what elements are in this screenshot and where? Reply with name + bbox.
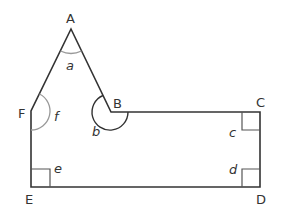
angle-c-right-marker — [242, 112, 260, 130]
angle-label-f: f — [54, 109, 61, 124]
angle-label-a: a — [66, 58, 74, 73]
vertex-label-e: E — [25, 192, 33, 207]
angle-d-right-marker — [242, 169, 260, 187]
angle-e-right-marker — [31, 169, 50, 187]
angle-a-arc — [61, 51, 82, 54]
angle-f-arc — [31, 94, 50, 130]
hexagon-diagram: A B C D E F a b c d e f — [0, 0, 281, 219]
angle-label-b: b — [92, 124, 100, 139]
vertex-label-d: D — [256, 192, 266, 207]
vertex-label-a: A — [66, 11, 75, 26]
vertex-label-f: F — [18, 106, 25, 121]
angle-label-d: d — [229, 162, 238, 177]
angle-label-c: c — [229, 125, 236, 140]
angle-label-e: e — [54, 161, 62, 176]
vertex-label-b: B — [113, 96, 122, 111]
vertex-label-c: C — [256, 95, 265, 110]
